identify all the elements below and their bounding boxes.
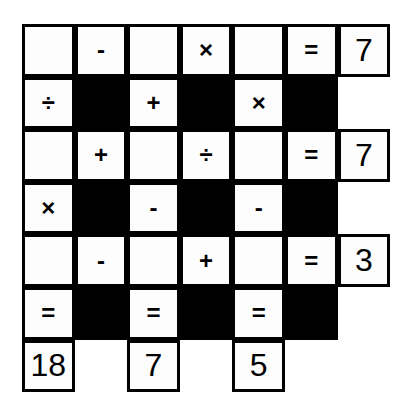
blocked-cell <box>285 77 338 130</box>
blocked-cell <box>75 182 128 235</box>
minus-operator-cell: - <box>127 182 180 235</box>
equals-operator-cell: = <box>285 24 338 77</box>
equals-operator-cell: = <box>285 129 338 182</box>
blocked-cell <box>75 287 128 340</box>
result-cell: 7 <box>127 340 180 393</box>
plus-operator-cell: + <box>127 77 180 130</box>
plus-operator-cell: + <box>180 234 233 287</box>
equals-operator-cell: = <box>22 287 75 340</box>
input-cell-r2-c4[interactable] <box>232 129 285 182</box>
divide-operator-cell: ÷ <box>22 77 75 130</box>
blocked-cell <box>285 287 338 340</box>
input-cell-r0-c2[interactable] <box>127 24 180 77</box>
blocked-cell <box>180 182 233 235</box>
result-cell: 7 <box>338 24 391 77</box>
equals-operator-cell: = <box>232 287 285 340</box>
blocked-cell <box>285 182 338 235</box>
divide-operator-cell: ÷ <box>180 129 233 182</box>
result-cell: 5 <box>232 340 285 393</box>
blocked-cell <box>75 77 128 130</box>
equals-operator-cell: = <box>127 287 180 340</box>
input-cell-r4-c0[interactable] <box>22 234 75 287</box>
plus-operator-cell: + <box>75 129 128 182</box>
blocked-cell <box>180 77 233 130</box>
input-cell-r4-c4[interactable] <box>232 234 285 287</box>
times-operator-cell: × <box>232 77 285 130</box>
times-operator-cell: × <box>180 24 233 77</box>
minus-operator-cell: - <box>232 182 285 235</box>
input-cell-r2-c0[interactable] <box>22 129 75 182</box>
input-cell-r2-c2[interactable] <box>127 129 180 182</box>
times-operator-cell: × <box>22 182 75 235</box>
result-cell: 3 <box>338 234 391 287</box>
math-crossword-grid: -×=7÷+×+÷=7×---+=3===1875 <box>22 24 392 394</box>
input-cell-r0-c0[interactable] <box>22 24 75 77</box>
minus-operator-cell: - <box>75 24 128 77</box>
result-cell: 18 <box>22 340 75 393</box>
result-cell: 7 <box>338 129 391 182</box>
input-cell-r0-c4[interactable] <box>232 24 285 77</box>
minus-operator-cell: - <box>75 234 128 287</box>
input-cell-r4-c2[interactable] <box>127 234 180 287</box>
blocked-cell <box>180 287 233 340</box>
equals-operator-cell: = <box>285 234 338 287</box>
